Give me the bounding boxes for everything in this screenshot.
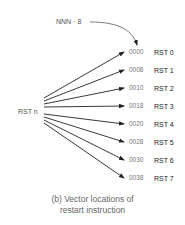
vector-name: RST 0	[154, 49, 174, 56]
vector-name: RST 2	[154, 85, 174, 92]
vector-name: RST 7	[154, 175, 174, 182]
vector-address: 0010	[129, 85, 143, 92]
vector-address: 0018	[129, 103, 143, 110]
vector-address: 0020	[129, 121, 143, 128]
vector-arrows	[44, 52, 124, 178]
vector-address: 0030	[129, 157, 143, 164]
vector-name: RST 4	[154, 121, 174, 128]
vector-address: 0000	[129, 49, 143, 56]
vector-name: RST 5	[154, 139, 174, 146]
vector-address: 0038	[129, 175, 143, 182]
vector-address: 0028	[129, 139, 143, 146]
source-label: RST n	[18, 108, 38, 115]
caption-line-1: (b) Vector locations of	[0, 194, 185, 204]
vector-name: RST 1	[154, 67, 174, 74]
offset-label: NNN · 8	[56, 18, 81, 25]
vector-name: RST 6	[154, 157, 174, 164]
vector-address: 0008	[129, 67, 143, 74]
offset-curve-arrow	[90, 22, 137, 45]
vector-name: RST 3	[154, 103, 174, 110]
caption-line-2: restart instruction	[0, 205, 185, 215]
